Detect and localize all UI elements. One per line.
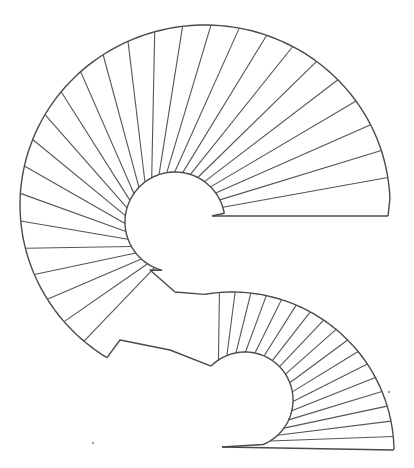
speck — [92, 442, 94, 444]
tread-line — [227, 292, 235, 356]
tread-line — [278, 421, 391, 435]
tread-line — [272, 312, 310, 361]
tread-line — [167, 25, 211, 173]
tread-line — [128, 41, 145, 182]
upper-inner-stringer — [125, 172, 224, 270]
tread-line — [81, 72, 134, 194]
tread-line — [190, 47, 292, 175]
tread-line — [205, 80, 338, 182]
upper-outer-stringer — [20, 25, 390, 358]
tread-line — [34, 253, 135, 275]
tread-line — [292, 352, 358, 392]
tread-line — [220, 150, 381, 199]
tread-line — [64, 264, 147, 322]
tread-line — [175, 28, 240, 172]
paper-specks — [92, 391, 390, 444]
tread-line — [159, 26, 183, 174]
tread-line — [289, 391, 382, 419]
tread-line — [255, 300, 282, 353]
lower-spiral-flight — [107, 270, 394, 450]
tread-line — [21, 221, 128, 239]
tread-line — [33, 140, 126, 216]
tread-line — [45, 115, 127, 208]
tread-line — [152, 32, 155, 178]
tread-line — [270, 437, 393, 441]
lower-landing-edge — [222, 447, 393, 450]
tread-line — [216, 125, 371, 193]
tread-line — [264, 305, 296, 356]
tread-line — [61, 92, 130, 201]
s-curve-lower-join — [107, 340, 211, 366]
tread-line — [25, 246, 131, 248]
spiral-staircase-drawing — [0, 0, 414, 468]
tread-line — [20, 193, 126, 231]
s-curve-upper-join — [150, 270, 204, 294]
tread-line — [47, 259, 141, 299]
tread-line — [218, 292, 219, 360]
tread-line — [223, 177, 388, 207]
upper-spiral-flight — [20, 25, 390, 358]
speck — [388, 391, 390, 393]
